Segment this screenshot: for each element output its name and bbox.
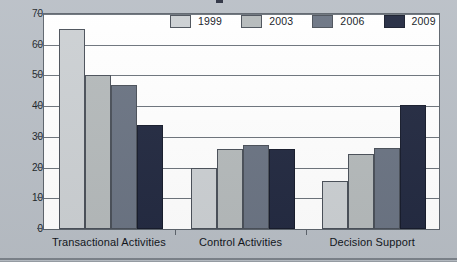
y-tick-label: 60 [17, 40, 43, 50]
bar-2009-0 [137, 125, 163, 229]
bar-series-container [44, 14, 439, 229]
chart-legend: 1999 2003 2006 2009 [170, 11, 455, 31]
scan-artifact-fragment [216, 0, 223, 3]
y-tick-label: 70 [17, 9, 43, 19]
x-axis-label-0: Transactional Activities [43, 236, 175, 248]
y-tick-label: 30 [17, 132, 43, 142]
bar-2009-2 [400, 105, 426, 229]
legend-label-1999: 1999 [198, 16, 222, 27]
bar-2003-1 [217, 149, 243, 229]
bar-2003-0 [85, 75, 111, 229]
legend-item-1999: 1999 [170, 15, 222, 28]
x-axis-tick [306, 230, 307, 235]
bar-2003-2 [348, 154, 374, 229]
y-tick-mark [37, 136, 42, 137]
y-tick-label: 20 [17, 163, 43, 173]
y-tick-label: 0 [17, 224, 43, 234]
bar-1999-2 [322, 181, 348, 229]
legend-swatch-2009 [384, 15, 405, 28]
bar-1999-1 [191, 168, 217, 229]
bar-2006-1 [243, 145, 269, 229]
y-tick-mark [37, 167, 42, 168]
page-rule [0, 258, 457, 260]
legend-swatch-1999 [170, 15, 191, 28]
y-tick-mark [37, 105, 42, 106]
legend-item-2006: 2006 [312, 15, 364, 28]
y-tick-label: 40 [17, 101, 43, 111]
plot-area [43, 13, 440, 230]
legend-item-2009: 2009 [384, 15, 436, 28]
y-tick-label: 50 [17, 70, 43, 80]
bar-1999-0 [59, 29, 85, 229]
y-tick-label: 10 [17, 193, 43, 203]
y-tick-mark [37, 13, 42, 14]
legend-item-2003: 2003 [241, 15, 293, 28]
y-axis: 010203040506070 [0, 13, 43, 231]
chart-figure: Percent 010203040506070 Transactional Ac… [0, 0, 457, 262]
x-axis-label-2: Decision Support [306, 236, 438, 248]
y-tick-mark [37, 74, 42, 75]
legend-label-2006: 2006 [340, 16, 364, 27]
legend-swatch-2006 [312, 15, 333, 28]
bar-2006-2 [374, 148, 400, 229]
y-tick-mark [37, 44, 42, 45]
bar-2009-1 [269, 149, 295, 229]
x-axis-label-1: Control Activities [175, 236, 307, 248]
y-tick-mark [37, 197, 42, 198]
legend-swatch-2003 [241, 15, 262, 28]
x-axis-tick [175, 230, 176, 235]
legend-label-2003: 2003 [269, 16, 293, 27]
legend-label-2009: 2009 [412, 16, 436, 27]
y-tick-mark [37, 228, 42, 229]
bar-2006-0 [111, 85, 137, 229]
